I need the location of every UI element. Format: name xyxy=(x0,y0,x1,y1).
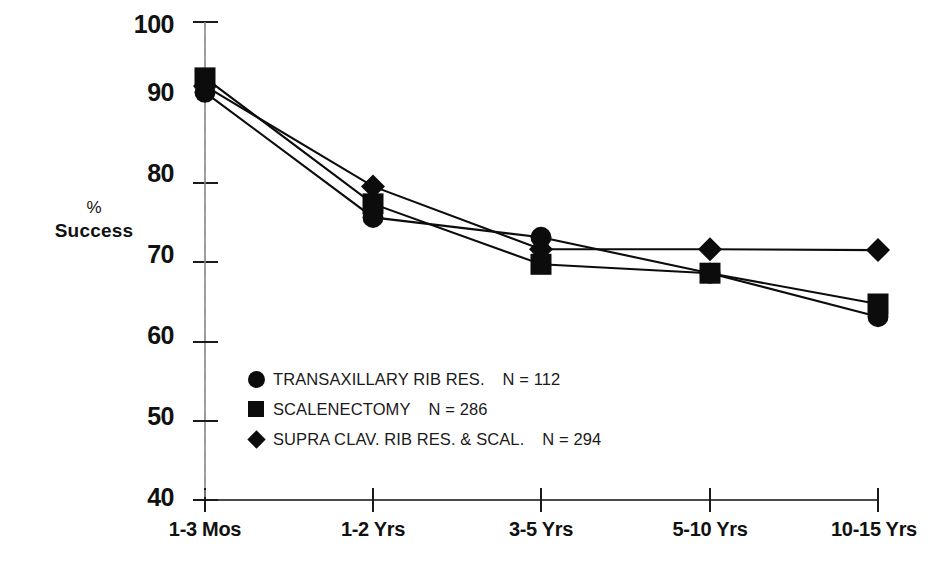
plot-area xyxy=(0,0,944,569)
x-tick-label-5-10-yrs: 5-10 Yrs xyxy=(640,518,780,541)
series-line-transaxillary-rib-res xyxy=(205,92,878,316)
legend-n-supra-clav-rib-res-scal: N = 294 xyxy=(524,430,601,449)
legend-label-scalenectomy: SCALENECTOMY xyxy=(269,400,411,419)
legend-n-transaxillary-rib-res: N = 112 xyxy=(485,370,561,389)
x-tick-label-3-5-yrs: 3-5 Yrs xyxy=(474,518,608,541)
chart-legend: TRANSAXILLARY RIB RES. N = 112 SCALENECT… xyxy=(243,364,663,454)
legend-item-scalenectomy: SCALENECTOMY N = 286 xyxy=(243,394,663,424)
diamond-marker-icon xyxy=(243,426,269,452)
data-point-supraclav-3 xyxy=(698,237,722,261)
legend-item-transaxillary-rib-res: TRANSAXILLARY RIB RES. N = 112 xyxy=(243,364,663,394)
success-rate-line-chart: % Success 100 90 80 70 60 50 40 xyxy=(0,0,944,569)
legend-n-scalenectomy: N = 286 xyxy=(411,400,488,419)
x-tick-label-1-3-mos: 1-3 Mos xyxy=(135,518,275,541)
x-tick-label-1-2-yrs: 1-2 Yrs xyxy=(306,518,440,541)
legend-item-supra-clav-rib-res-scal: SUPRA CLAV. RIB RES. & SCAL. N = 294 xyxy=(243,424,663,454)
legend-label-transaxillary-rib-res: TRANSAXILLARY RIB RES. xyxy=(269,370,485,389)
data-point-scalenectomy-4 xyxy=(868,294,889,315)
legend-label-supra-clav-rib-res-scal: SUPRA CLAV. RIB RES. & SCAL. xyxy=(269,430,524,449)
data-point-scalenectomy-3 xyxy=(700,263,721,284)
data-point-supraclav-4 xyxy=(866,238,890,262)
x-tick-label-10-15-yrs: 10-15 Yrs xyxy=(806,518,942,541)
circle-marker-icon xyxy=(243,366,269,392)
square-marker-icon xyxy=(243,396,269,422)
